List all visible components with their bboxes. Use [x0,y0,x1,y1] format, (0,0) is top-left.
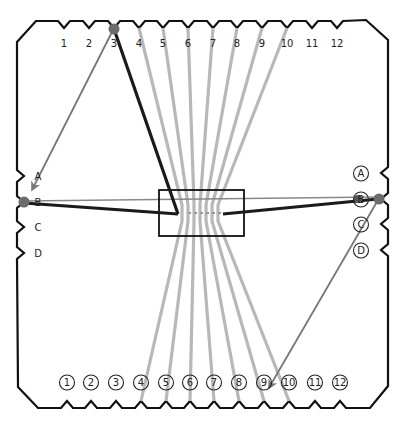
bottom-label-10: 10 [283,377,296,388]
top-label-12: 12 [331,38,344,49]
top-label-8: 8 [234,38,240,49]
bottom-label-11: 11 [309,377,322,388]
dark-string-leftB [24,203,178,214]
top-label-5: 5 [160,38,166,49]
top-label-4: 4 [136,38,142,49]
right-hole-labels: ABCD [354,166,369,258]
gray-string-9 [212,28,264,401]
top-label-10: 10 [281,38,294,49]
left-label-C: C [35,222,42,233]
bottom-label-1: 1 [64,377,70,388]
bottom-label-12: 12 [334,377,347,388]
bottom-label-3: 3 [113,377,119,388]
top-label-6: 6 [185,38,191,49]
top-label-11: 11 [306,38,319,49]
top-hole-labels: 123456789101112 [61,38,344,49]
top-label-2: 2 [86,38,92,49]
left-label-B: B [35,197,42,208]
top-label-1: 1 [61,38,67,49]
bottom-hole-labels: 123456789101112 [60,375,348,390]
left-label-A: A [35,171,42,182]
bottom-label-4: 4 [138,377,144,388]
bottom-label-5: 5 [163,377,169,388]
bottom-label-8: 8 [236,377,242,388]
top-label-9: 9 [259,38,265,49]
peg-top-3 [109,24,120,35]
top-label-7: 7 [210,38,216,49]
right-label-A: A [358,168,365,179]
bottom-label-6: 6 [187,377,193,388]
peg-left-B [19,197,30,208]
arrow-top3-to-leftA [33,30,113,188]
loom-diagram: 123456789101112 123456789101112 ABCD ABC… [0,0,397,435]
peg-right-B [374,194,385,205]
right-label-C: C [358,219,365,230]
bottom-label-7: 7 [211,377,217,388]
left-label-D: D [34,248,42,259]
bottom-label-2: 2 [88,377,94,388]
top-label-3: 3 [111,38,117,49]
gray-strings [139,28,289,401]
bottom-label-9: 9 [261,377,267,388]
right-label-B: B [358,194,365,205]
right-label-D: D [357,245,365,256]
